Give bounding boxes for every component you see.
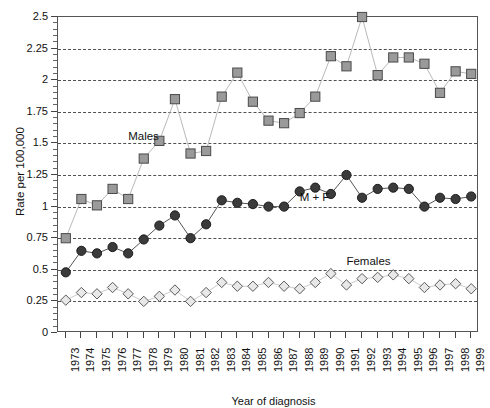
data-point: [186, 234, 195, 243]
data-point: [373, 71, 382, 80]
data-point: [389, 183, 398, 192]
x-tick-label: 1993: [381, 348, 393, 372]
x-tick: [283, 332, 284, 338]
y-tick: [51, 206, 57, 207]
data-point: [264, 202, 273, 211]
x-tick-label: 1983: [225, 348, 237, 372]
x-tick-label: 1977: [131, 348, 143, 372]
data-point: [467, 192, 476, 201]
data-point: [389, 53, 398, 62]
data-point: [451, 67, 460, 76]
y-tick-label: 0.75: [27, 231, 48, 243]
x-tick-label: 1992: [365, 348, 377, 372]
data-point: [310, 277, 320, 287]
y-tick: [51, 174, 57, 175]
data-point: [264, 116, 273, 125]
y-tick-minor: [53, 60, 57, 61]
x-tick-label: 1999: [474, 348, 486, 372]
data-point: [201, 287, 211, 297]
y-tick-minor: [53, 180, 57, 181]
data-point: [311, 92, 320, 101]
data-point: [420, 202, 429, 211]
y-tick-minor: [53, 319, 57, 320]
x-tick-label: 1973: [69, 348, 81, 372]
data-point: [263, 277, 273, 287]
y-tick-label: 0: [42, 326, 48, 338]
x-tick: [190, 332, 191, 338]
data-point: [61, 234, 70, 243]
x-tick-label: 1975: [100, 348, 112, 372]
x-tick-label: 1984: [240, 348, 252, 372]
x-tick: [439, 332, 440, 338]
data-point: [466, 284, 476, 294]
y-tick: [51, 300, 57, 301]
x-tick: [127, 332, 128, 338]
data-point: [373, 184, 382, 193]
data-point: [450, 279, 460, 289]
y-tick-label: 0.5: [33, 263, 48, 275]
y-tick-minor: [53, 193, 57, 194]
y-tick: [51, 142, 57, 143]
data-point: [107, 282, 117, 292]
data-point: [467, 69, 476, 78]
x-tick: [252, 332, 253, 338]
x-tick: [80, 332, 81, 338]
x-tick-label: 1996: [427, 348, 439, 372]
data-point: [342, 62, 351, 71]
x-tick: [205, 332, 206, 338]
data-point: [295, 108, 304, 117]
x-tick: [377, 332, 378, 338]
data-point: [155, 221, 164, 230]
data-point: [233, 198, 242, 207]
data-point: [217, 92, 226, 101]
plot-area: MalesM + FFemales: [57, 16, 478, 332]
y-tick: [51, 237, 57, 238]
y-tick-label: 1.25: [27, 168, 48, 180]
y-tick: [51, 16, 57, 17]
y-tick-minor: [53, 136, 57, 137]
chart-root: Rate per 100,000 MalesM + FFemales 00.25…: [0, 0, 490, 408]
x-tick-label: 1976: [116, 348, 128, 372]
x-tick-label: 1997: [443, 348, 455, 372]
data-point: [341, 280, 351, 290]
data-point: [77, 246, 86, 255]
data-point: [248, 281, 258, 291]
data-point: [248, 199, 257, 208]
series-label-males: Males: [128, 130, 159, 142]
data-point: [61, 268, 70, 277]
data-point: [108, 184, 117, 193]
y-tick-minor: [53, 117, 57, 118]
y-tick-minor: [53, 225, 57, 226]
data-point: [451, 194, 460, 203]
y-tick-minor: [53, 29, 57, 30]
y-tick-minor: [53, 218, 57, 219]
x-tick-label: 1989: [318, 348, 330, 372]
y-tick-minor: [53, 256, 57, 257]
x-tick-label: 1988: [303, 348, 315, 372]
data-point: [92, 201, 101, 210]
data-point: [170, 211, 179, 220]
data-point: [357, 273, 367, 283]
data-point: [185, 296, 195, 306]
y-tick-label: 1: [42, 200, 48, 212]
data-point: [435, 193, 444, 202]
y-tick-label: 1.5: [33, 136, 48, 148]
data-point: [92, 289, 102, 299]
data-point: [404, 184, 413, 193]
x-tick: [65, 332, 66, 338]
y-tick-minor: [53, 22, 57, 23]
data-point: [357, 193, 366, 202]
data-point: [202, 146, 211, 155]
y-tick-label: 2: [42, 73, 48, 85]
y-tick: [51, 79, 57, 80]
y-tick-minor: [53, 41, 57, 42]
x-tick-label: 1986: [272, 348, 284, 372]
x-axis-title: Year of diagnosis: [232, 395, 316, 407]
y-tick-minor: [53, 168, 57, 169]
series-label-females: Females: [346, 255, 390, 267]
data-point: [124, 249, 133, 258]
x-tick-label: 1980: [178, 348, 190, 372]
data-point: [186, 149, 195, 158]
series-label-m-f: M + F: [300, 191, 330, 203]
y-tick-minor: [53, 288, 57, 289]
